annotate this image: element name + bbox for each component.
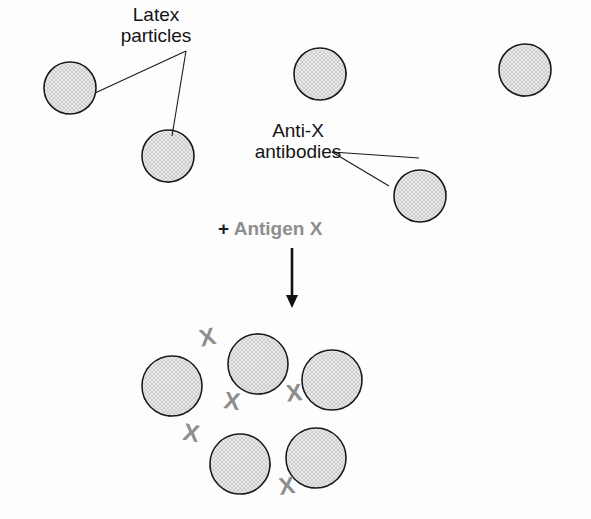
leader-line-latex-to-p1: [95, 51, 186, 93]
antigen-plus-sign: +: [218, 218, 234, 239]
label-antigen-x: + Antigen X: [218, 218, 322, 240]
antigen-x-text: Antigen X: [234, 218, 323, 239]
latex-particle: [142, 356, 202, 416]
latex-particle: [44, 62, 96, 114]
reaction-arrow-head: [286, 295, 298, 308]
latex-particle: [302, 350, 362, 410]
label-latex-particles: Latex particles: [96, 4, 216, 46]
leader-line-latex-to-p2: [172, 51, 186, 136]
antigen-x-mark: X: [285, 378, 304, 407]
antigen-x-mark: X: [197, 322, 218, 352]
latex-particle: [228, 334, 288, 394]
latex-particle: [286, 428, 346, 488]
latex-particle: [142, 130, 194, 182]
antigen-x-mark: X: [222, 386, 242, 415]
latex-particle: [294, 48, 346, 100]
latex-particle: [210, 434, 270, 494]
label-anti-x-antibodies: Anti-X antibodies: [238, 120, 358, 162]
latex-particle: [499, 44, 551, 96]
agglutination-diagram: XXXXX: [0, 0, 591, 519]
antigen-x-mark: X: [181, 418, 201, 447]
figure-canvas: XXXXX Latex particles Anti-X antibodies …: [0, 0, 591, 519]
latex-particle: [394, 170, 446, 222]
